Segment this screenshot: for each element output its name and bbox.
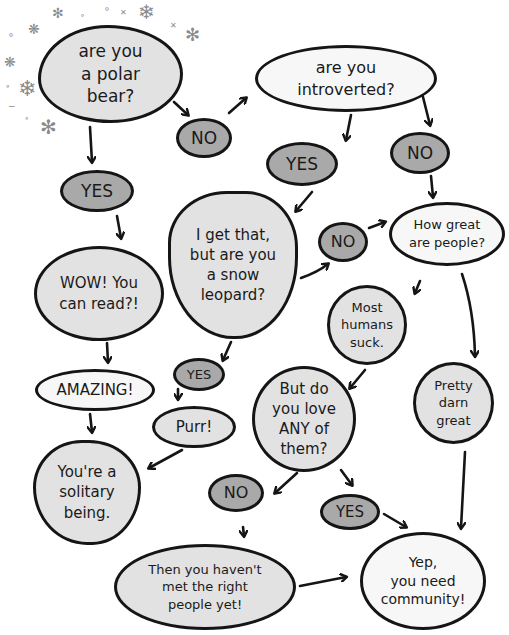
arrow-wow-to-amazing (107, 343, 108, 362)
node-label: Most humans suck. (341, 299, 393, 352)
node-label: But do you love ANY of them? (272, 379, 336, 460)
node-need-community: Yep, you need community! (360, 532, 486, 630)
node-q-introverted: are you introverted? (255, 45, 437, 112)
node-label: WOW! You can read?! (59, 273, 138, 314)
arrow-no-2-to-q-how-great (431, 176, 433, 197)
node-label: Pretty darn great (434, 377, 473, 430)
node-wow: WOW! You can read?! (34, 246, 164, 341)
node-solitary: You're a solitary being. (33, 440, 141, 545)
arrow-q-how-great-to-most-humans (415, 281, 420, 293)
node-label: NO (407, 142, 433, 165)
node-label: are you introverted? (297, 57, 395, 100)
node-yes-1: YES (266, 142, 338, 186)
node-no-3: NO (318, 222, 368, 262)
node-no-4: NO (208, 474, 264, 512)
node-most-humans: Most humans suck. (327, 285, 407, 365)
node-amazing: AMAZING! (35, 369, 155, 411)
node-label: Then you haven't met the right people ye… (148, 561, 261, 614)
node-q-polar-bear: are you a polar bear? (38, 25, 183, 123)
arrow-no-1-to-q-introverted (229, 98, 246, 113)
node-label: Yep, you need community! (381, 553, 466, 610)
node-label: AMAZING! (56, 380, 133, 400)
node-label: NO (331, 231, 356, 253)
node-no-1: NO (176, 118, 232, 158)
arrow-q-snow-leopard-to-no-3 (301, 264, 328, 278)
node-label: YES (286, 153, 318, 176)
arrow-yes-4-to-need-community (384, 514, 406, 527)
node-label: You're a solitary being. (57, 462, 116, 523)
flowchart-canvas: ✻❄✻❋❋❄✻∘∘✕∘✕∘∘− are you a polar bear?are… (0, 0, 509, 635)
node-label: I get that, but are you a snow leopard? (190, 225, 276, 306)
node-label: NO (191, 127, 217, 150)
arrow-most-humans-to-q-love-any (350, 370, 365, 388)
node-label: NO (224, 482, 249, 504)
arrow-q-love-any-to-yes-4 (341, 470, 352, 485)
arrow-amazing-to-solitary (90, 414, 92, 432)
node-purr: Purr! (152, 406, 236, 448)
node-label: Purr! (176, 417, 212, 437)
arrow-purr-to-solitary (149, 450, 182, 468)
arrow-yes-2-to-wow (117, 216, 121, 238)
node-label: YES (187, 366, 211, 384)
arrow-no-3-to-q-how-great (369, 222, 385, 228)
node-label: How great are people? (409, 216, 485, 251)
arrow-q-introverted-to-no-2 (422, 93, 430, 125)
node-pretty-darn-great: Pretty darn great (413, 362, 494, 444)
node-label: YES (336, 502, 364, 522)
arrow-q-polar-bear-to-yes-2 (90, 127, 92, 162)
arrow-yes-1-to-q-snow-leopard (296, 192, 312, 211)
arrow-q-snow-leopard-to-yes-3 (223, 342, 231, 360)
node-yes-3: YES (173, 358, 225, 391)
arrow-q-love-any-to-no-4 (275, 473, 297, 493)
node-label: are you a polar bear? (78, 40, 142, 109)
node-q-how-great: How great are people? (389, 202, 505, 266)
node-yes-2: YES (60, 170, 134, 212)
arrow-no-4-to-havent-met (243, 527, 244, 536)
arrow-havent-met-to-need-community (300, 577, 346, 586)
arrow-q-introverted-to-yes-1 (346, 115, 351, 140)
node-q-love-any: But do you love ANY of them? (252, 366, 356, 472)
node-havent-met: Then you haven't met the right people ye… (114, 544, 296, 630)
node-yes-4: YES (320, 494, 380, 530)
node-no-2: NO (390, 132, 450, 174)
node-label: YES (81, 180, 113, 203)
arrow-q-polar-bear-to-no-1 (174, 102, 188, 115)
arrow-pretty-darn-great-to-need-community (461, 452, 465, 528)
arrow-q-how-great-to-pretty-darn-great (462, 274, 475, 356)
